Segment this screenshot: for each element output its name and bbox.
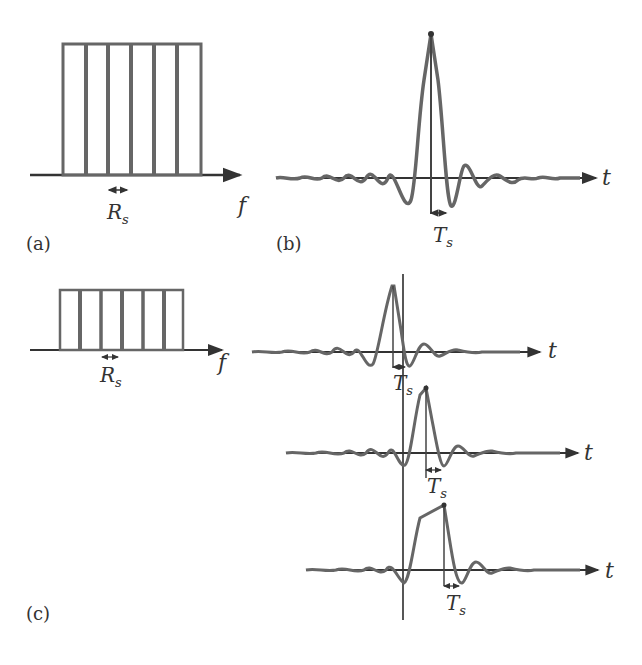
svg-text:Ts: Ts xyxy=(446,591,466,618)
svg-text:Ts: Ts xyxy=(427,474,447,501)
ts-label: Ts xyxy=(433,223,453,250)
subcarrier-bars xyxy=(63,44,201,175)
subcarrier-bars-c xyxy=(60,290,183,350)
ofdm-figure: Rs f (a) Ts t (b) Rs f T xyxy=(0,0,642,665)
panel-c-pulse-1: Ts t xyxy=(252,286,557,398)
rs-label: Rs xyxy=(106,200,129,227)
panel-c-label: (c) xyxy=(26,603,50,624)
panel-c-pulse-2: Ts t xyxy=(286,386,593,502)
f-axis-label: f xyxy=(236,193,250,218)
panel-c-pulse-3: Ts t xyxy=(306,503,614,619)
svg-text:Ts: Ts xyxy=(393,371,413,398)
panel-b-label: (b) xyxy=(276,233,302,254)
svg-text:t: t xyxy=(605,558,614,583)
f-axis-label-c: f xyxy=(216,350,230,375)
panel-a-label: (a) xyxy=(26,233,51,254)
svg-text:t: t xyxy=(548,338,557,363)
rs-label-c: Rs xyxy=(99,363,122,390)
t-axis-label: t xyxy=(602,165,611,190)
panel-b-sinc: Ts t (b) xyxy=(276,31,611,254)
svg-text:t: t xyxy=(584,440,593,465)
sinc-pulse xyxy=(276,34,580,206)
panel-a-spectrum: Rs f (a) xyxy=(26,44,250,254)
panel-c-spectrum: Rs f xyxy=(30,290,230,390)
